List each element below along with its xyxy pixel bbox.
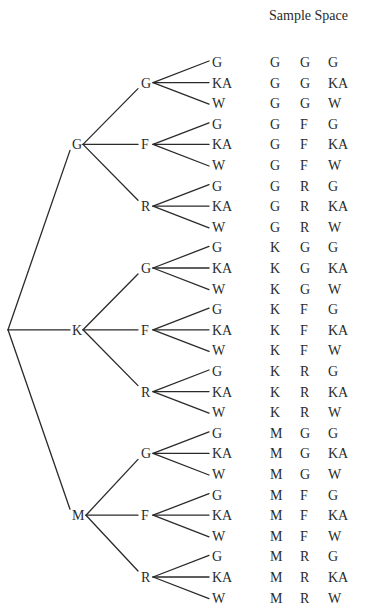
sample-space-cell: G: [300, 55, 310, 70]
leaf-node: W: [212, 405, 226, 420]
sample-space-cell: R: [300, 199, 310, 214]
sample-space-cell: R: [300, 385, 310, 400]
sample-space-cell: G: [328, 302, 338, 317]
level2-node: G: [141, 446, 151, 461]
sample-space-cell: W: [328, 591, 342, 606]
edge-level2-to-leaf: [153, 83, 209, 105]
edge-level2-to-leaf: [153, 515, 209, 537]
sample-space-row: KFW: [270, 343, 342, 358]
edge-level2-to-leaf: [153, 268, 209, 290]
sample-space-cell: KA: [328, 323, 349, 338]
sample-space-row: MFG: [270, 488, 338, 503]
sample-space-cell: R: [300, 364, 310, 379]
sample-space-cell: W: [328, 220, 342, 235]
leaf-node: G: [212, 55, 222, 70]
sample-space-cell: W: [328, 467, 342, 482]
leaf-node: KA: [212, 261, 233, 276]
sample-space-cell: KA: [328, 385, 349, 400]
sample-space-cell: R: [300, 405, 310, 420]
sample-space-cell: G: [270, 137, 280, 152]
level2-node: F: [141, 137, 149, 152]
sample-space-row: MGW: [270, 467, 342, 482]
sample-space-row: MRG: [270, 549, 338, 564]
sample-space-row: KFKA: [270, 323, 349, 338]
edge-level2-to-leaf: [153, 577, 209, 599]
sample-space-row: KGW: [270, 282, 342, 297]
sample-space-cell: KA: [328, 76, 349, 91]
sample-space-row: MRKA: [270, 570, 349, 585]
edge-level2-to-leaf: [153, 330, 209, 352]
sample-space-cell: F: [300, 508, 308, 523]
sample-space-cell: F: [300, 488, 308, 503]
sample-space-cell: G: [300, 261, 310, 276]
leaf-node: KA: [212, 446, 233, 461]
sample-space-cell: KA: [328, 137, 349, 152]
sample-space-cell: G: [328, 55, 338, 70]
edge-level1-to-level2: [83, 274, 138, 330]
level1-node: M: [72, 508, 85, 523]
sample-space-cell: G: [270, 76, 280, 91]
edge-level2-to-leaf: [153, 392, 209, 414]
sample-space-row: GFKA: [270, 137, 349, 152]
sample-space-row: GFW: [270, 158, 342, 173]
sample-space-cell: M: [270, 591, 283, 606]
level2-node: R: [141, 385, 151, 400]
tree-edges: [8, 61, 209, 599]
sample-space-cell: KA: [328, 199, 349, 214]
sample-space-cell: K: [270, 405, 280, 420]
edge-level2-to-leaf: [153, 123, 209, 145]
sample-space-cell: G: [270, 96, 280, 111]
sample-space-cell: G: [328, 179, 338, 194]
tree-diagram: Sample Space GGGKAWFGKAWRGKAWKGGKAWFGKAW…: [0, 0, 368, 615]
leaf-node: W: [212, 467, 226, 482]
sample-space-cell: G: [270, 158, 280, 173]
sample-space-cell: F: [300, 343, 308, 358]
leaf-node: KA: [212, 76, 233, 91]
sample-space-cell: W: [328, 343, 342, 358]
sample-space-cell: K: [270, 343, 280, 358]
sample-space-cell: G: [328, 488, 338, 503]
sample-space-cell: W: [328, 529, 342, 544]
sample-space-row: MGKA: [270, 446, 349, 461]
leaf-node: G: [212, 364, 222, 379]
leaf-node: G: [212, 426, 222, 441]
level2-node: G: [141, 76, 151, 91]
sample-space-row: GRG: [270, 179, 338, 194]
sample-space-cell: G: [300, 282, 310, 297]
sample-space-cell: W: [328, 96, 342, 111]
sample-space-row: KRG: [270, 364, 338, 379]
sample-space-cell: F: [300, 529, 308, 544]
edge-level1-to-level2: [86, 515, 138, 571]
leaf-node: W: [212, 220, 226, 235]
sample-space-cell: G: [328, 364, 338, 379]
sample-space-cell: R: [300, 549, 310, 564]
sample-space-cell: M: [270, 488, 283, 503]
leaf-node: W: [212, 591, 226, 606]
sample-space-cell: M: [270, 529, 283, 544]
sample-space-cell: K: [270, 302, 280, 317]
sample-space-cell: R: [300, 179, 310, 194]
sample-space-row: KGKA: [270, 261, 349, 276]
sample-space-row: KRW: [270, 405, 342, 420]
edge-level2-to-leaf: [153, 494, 209, 516]
leaf-node: W: [212, 282, 226, 297]
sample-space-cell: W: [328, 282, 342, 297]
sample-space-cell: KA: [328, 261, 349, 276]
sample-space-cell: G: [270, 117, 280, 132]
leaf-node: KA: [212, 137, 233, 152]
level2-node: F: [141, 323, 149, 338]
sample-space-cell: G: [270, 220, 280, 235]
edge-level2-to-leaf: [153, 453, 209, 475]
leaf-node: KA: [212, 323, 233, 338]
sample-space-row: GGW: [270, 96, 342, 111]
edge-level1-to-level2: [83, 144, 138, 200]
sample-space-cell: G: [328, 240, 338, 255]
sample-space-cell: K: [270, 385, 280, 400]
leaf-node: G: [212, 179, 222, 194]
sample-space-cell: M: [270, 426, 283, 441]
edge-level2-to-leaf: [153, 206, 209, 228]
edge-level1-to-level2: [86, 459, 138, 515]
sample-space-row: MGG: [270, 426, 338, 441]
sample-space-cell: K: [270, 240, 280, 255]
leaf-node: KA: [212, 508, 233, 523]
